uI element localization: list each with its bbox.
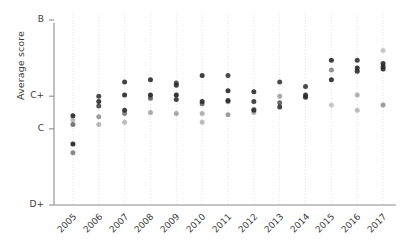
data-point-2013-1	[277, 94, 282, 99]
data-point-2012-1	[251, 99, 256, 104]
axis-line-group	[54, 23, 396, 205]
data-point-2014-2	[303, 95, 308, 100]
data-point-2007-4	[122, 120, 127, 125]
data-point-2016-2	[355, 69, 360, 74]
data-point-2009-3	[174, 97, 179, 102]
data-point-2009-4	[174, 111, 179, 116]
y-tick-label-B: B	[12, 14, 44, 24]
y-tick-label-D+: D+	[12, 199, 44, 209]
data-point-2005-4	[70, 150, 75, 155]
data-point-2017-4	[381, 102, 386, 107]
data-point-2010-3	[200, 111, 205, 116]
data-point-2015-1	[329, 68, 334, 73]
data-point-2007-3	[122, 111, 127, 116]
data-point-2011-1	[226, 88, 231, 93]
data-point-2015-0	[329, 58, 334, 63]
data-point-2015-3	[329, 102, 334, 107]
data-point-2017-0	[381, 48, 386, 53]
data-point-2006-0	[96, 94, 101, 99]
data-point-2013-0	[277, 80, 282, 85]
data-point-2013-3	[277, 105, 282, 110]
data-point-2008-3	[148, 110, 153, 115]
data-point-group	[70, 48, 385, 155]
data-point-2011-3	[226, 99, 231, 104]
data-point-2005-2	[70, 122, 75, 127]
data-point-2008-2	[148, 96, 153, 101]
data-point-2015-2	[329, 77, 334, 82]
tick-mark-group	[49, 20, 54, 205]
data-point-2006-1	[96, 99, 101, 104]
data-point-2011-4	[226, 112, 231, 117]
data-point-2016-0	[355, 58, 360, 63]
data-point-2016-4	[355, 108, 360, 113]
data-point-2017-3	[381, 66, 386, 71]
data-point-2005-0	[70, 113, 75, 118]
data-point-2011-0	[226, 73, 231, 78]
data-point-2012-4	[251, 110, 256, 115]
data-point-2012-0	[251, 89, 256, 94]
data-point-2006-2	[96, 103, 101, 108]
data-point-2010-2	[200, 101, 205, 106]
y-tick-label-C: C	[12, 123, 44, 133]
data-point-2013-2	[277, 100, 282, 105]
data-point-2014-0	[303, 84, 308, 89]
data-point-2006-3	[96, 114, 101, 119]
gridline-group	[73, 14, 383, 205]
data-point-2008-0	[148, 77, 153, 82]
data-point-2007-0	[122, 80, 127, 85]
chart-canvas	[0, 0, 406, 249]
data-point-2009-1	[174, 83, 179, 88]
data-point-2007-1	[122, 93, 127, 98]
data-point-2005-3	[70, 142, 75, 147]
data-point-2009-2	[174, 93, 179, 98]
data-point-2016-3	[355, 93, 360, 98]
data-point-2010-0	[200, 73, 205, 78]
scatter-chart: Average score BC+CD+ 2005200620072008200…	[0, 0, 406, 249]
data-point-2010-4	[200, 120, 205, 125]
data-point-2005-1	[70, 118, 75, 123]
y-tick-label-C+: C+	[12, 90, 44, 100]
data-point-2006-4	[96, 122, 101, 127]
